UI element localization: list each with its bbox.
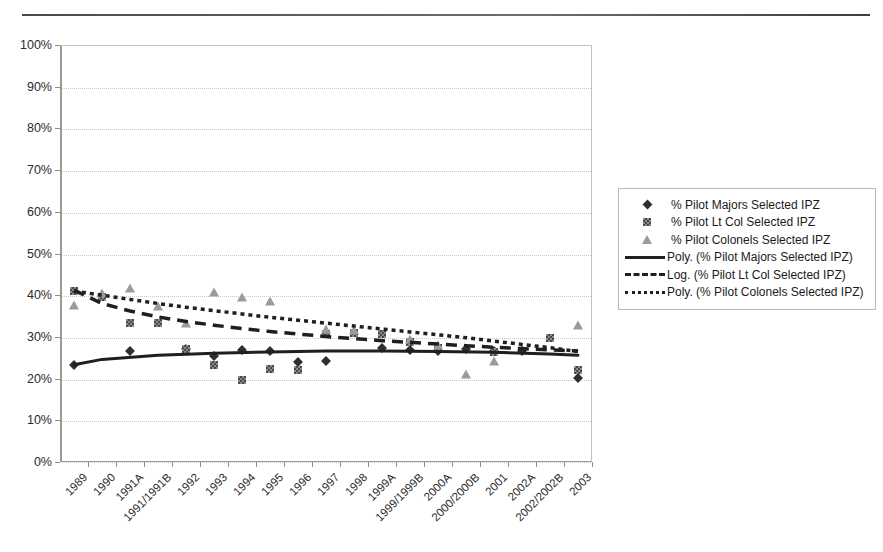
legend-item[interactable]: Log. (% Pilot Lt Col Selected IPZ) bbox=[625, 266, 867, 284]
legend-key bbox=[625, 266, 665, 284]
legend-item-label: % Pilot Lt Col Selected IPZ bbox=[669, 215, 815, 229]
legend-key bbox=[625, 214, 669, 232]
legend-item[interactable]: % Pilot Colonels Selected IPZ bbox=[625, 231, 867, 249]
chart-page: 0%10%20%30%40%50%60%70%80%90%100%1989199… bbox=[0, 0, 883, 552]
diamond-marker-icon bbox=[642, 200, 652, 210]
triangle-marker-icon bbox=[642, 235, 652, 244]
chart-legend: % Pilot Majors Selected IPZ% Pilot Lt Co… bbox=[618, 188, 876, 310]
trendline-dotted bbox=[74, 291, 578, 352]
legend-key bbox=[625, 196, 669, 214]
legend-item-label: % Pilot Majors Selected IPZ bbox=[669, 198, 820, 212]
legend-item[interactable]: % Pilot Majors Selected IPZ bbox=[625, 196, 867, 214]
dotted-line-icon bbox=[625, 291, 665, 294]
legend-item[interactable]: % Pilot Lt Col Selected IPZ bbox=[625, 214, 867, 232]
legend-item-label: Poly. (% Pilot Majors Selected IPZ) bbox=[665, 250, 853, 264]
legend-key bbox=[625, 231, 669, 249]
legend-key bbox=[625, 284, 665, 302]
trendline-dashed bbox=[74, 290, 578, 351]
legend-item-label: % Pilot Colonels Selected IPZ bbox=[669, 233, 830, 247]
solid-line-icon bbox=[625, 256, 665, 259]
trendline-solid bbox=[74, 351, 578, 365]
legend-item-label: Log. (% Pilot Lt Col Selected IPZ) bbox=[665, 268, 846, 282]
legend-key bbox=[625, 249, 665, 267]
legend-item[interactable]: Poly. (% Pilot Majors Selected IPZ) bbox=[625, 249, 867, 267]
square-marker-icon bbox=[643, 218, 651, 226]
legend-item[interactable]: Poly. (% Pilot Colonels Selected IPZ) bbox=[625, 284, 867, 302]
legend-item-label: Poly. (% Pilot Colonels Selected IPZ) bbox=[665, 285, 864, 299]
dashed-line-icon bbox=[625, 273, 665, 276]
